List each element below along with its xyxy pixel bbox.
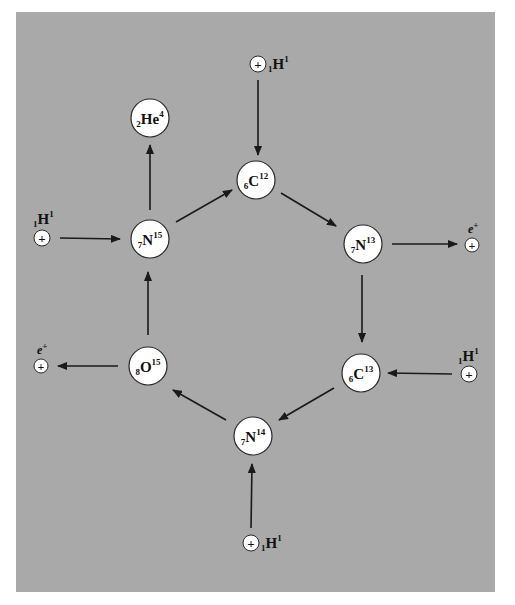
plus-icon: + (38, 231, 45, 246)
proton-4: + 1H1 (33, 209, 54, 246)
plus-icon: + (465, 367, 472, 382)
nucleus-he4: 2He4 (131, 99, 169, 137)
nucleus-c12: 6C12 (237, 161, 275, 199)
svg-text:1H1: 1H1 (458, 346, 479, 366)
plus-icon: + (469, 239, 476, 253)
nucleus-n14: 7N14 (234, 417, 272, 455)
nucleus-n15: 7N15 (131, 220, 169, 258)
nucleus-c13: 6C13 (342, 354, 380, 392)
nucleus-o15: 8O15 (129, 347, 167, 385)
positron-1: + e+ (465, 220, 479, 253)
arrow-n14-to-o15 (173, 390, 226, 420)
svg-text:1H1: 1H1 (33, 209, 54, 229)
svg-text:1H1: 1H1 (261, 533, 282, 553)
svg-text:1H1: 1H1 (268, 54, 289, 74)
nucleus-n13: 7N13 (344, 225, 382, 263)
plus-icon: + (38, 360, 45, 374)
arrow-p4-to-n15 (60, 238, 120, 239)
reaction-arrows (58, 80, 457, 528)
proton-3: + 1H1 (243, 533, 282, 553)
arrow-p3-to-n14 (251, 464, 252, 528)
plus-icon: + (247, 536, 254, 551)
plus-icon: + (254, 57, 261, 72)
positron-2: + e+ (34, 341, 48, 374)
arrow-c13-to-n14 (279, 388, 334, 420)
arrow-p2-to-c13 (388, 373, 452, 374)
svg-text:e+: e+ (37, 341, 47, 357)
cno-cycle-diagram: 6C12 7N13 6C13 7N14 8O15 7N15 2He4 + 1H1… (0, 0, 515, 605)
svg-text:e+: e+ (468, 220, 478, 236)
proton-1: + 1H1 (250, 54, 289, 74)
arrow-n15-to-c12 (176, 190, 232, 222)
arrow-c12-to-n13 (281, 193, 336, 226)
proton-2: + 1H1 (458, 346, 479, 382)
